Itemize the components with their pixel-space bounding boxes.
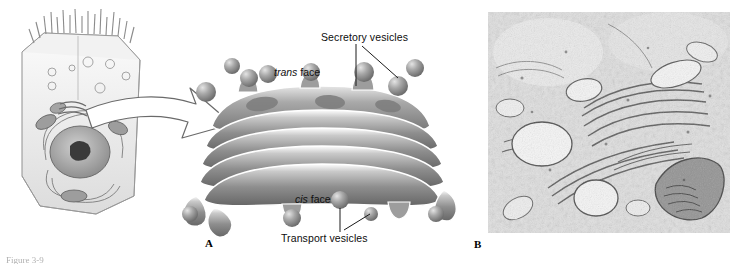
panel-letter-b: B — [474, 238, 481, 250]
cis-roman: face — [308, 193, 331, 205]
electron-micrograph — [488, 12, 730, 233]
figure-golgi-apparatus: Secretory vesicles Transport vesicles tr… — [0, 0, 737, 265]
figure-caption: Figure 3-9 — [6, 255, 44, 264]
transport-vesicle-2 — [331, 191, 349, 209]
panel-letter-a: A — [205, 237, 213, 249]
trans-roman: face — [297, 66, 320, 78]
cis-neck-2 — [388, 202, 410, 219]
trans-italic: trans — [274, 66, 297, 78]
label-cis-face: cis face — [295, 193, 331, 205]
cis-italic: cis — [295, 193, 308, 205]
golgi-stack — [184, 72, 457, 237]
label-secretory-vesicles: Secretory vesicles — [321, 31, 408, 43]
label-trans-face: trans face — [274, 66, 320, 78]
transport-vesicle-1 — [283, 209, 301, 227]
label-transport-vesicles: Transport vesicles — [281, 232, 368, 244]
transport-vesicle-3 — [364, 207, 378, 221]
